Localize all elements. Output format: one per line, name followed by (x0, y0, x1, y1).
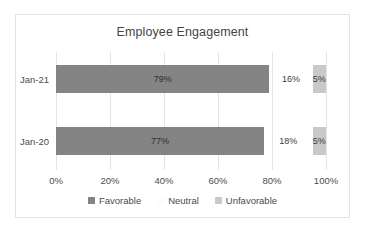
category-label: Jan-21 (20, 74, 49, 85)
x-axis-tick: 80% (262, 175, 281, 186)
bar-segment-value: 77% (151, 136, 169, 146)
gridline-100 (326, 52, 327, 170)
legend-swatch-icon (157, 197, 164, 204)
plot-area: Jan-21 79% 16% 5% Jan-20 77% 18% 5% (56, 52, 326, 170)
bar-segment-neutral[interactable]: 16% (269, 65, 312, 93)
legend-item-favorable[interactable]: Favorable (88, 195, 141, 206)
category-label: Jan-20 (20, 136, 49, 147)
legend-label: Neutral (168, 195, 199, 206)
x-axis: 0% 20% 40% 60% 80% 100% (56, 175, 326, 189)
bar-segment-unfavorable[interactable]: 5% (313, 127, 327, 155)
x-axis-tick: 0% (49, 175, 63, 186)
bar-segment-value: 18% (279, 136, 297, 146)
bar-segment-value: 5% (313, 136, 326, 146)
legend-label: Unfavorable (226, 195, 277, 206)
x-axis-tick: 40% (154, 175, 173, 186)
legend-label: Favorable (99, 195, 141, 206)
bar-row[interactable]: Jan-21 79% 16% 5% (56, 65, 326, 93)
x-axis-tick: 100% (314, 175, 338, 186)
bar-segment-unfavorable[interactable]: 5% (313, 65, 327, 93)
legend-item-unfavorable[interactable]: Unfavorable (215, 195, 277, 206)
legend-swatch-icon (215, 197, 222, 204)
chart-container: Employee Engagement Jan-21 79% 16% 5% Ja… (15, 14, 350, 218)
bar-segment-favorable[interactable]: 77% (56, 127, 264, 155)
x-axis-tick: 60% (208, 175, 227, 186)
x-axis-tick: 20% (100, 175, 119, 186)
bar-segment-neutral[interactable]: 18% (264, 127, 313, 155)
chart-legend: Favorable Neutral Unfavorable (16, 195, 349, 206)
legend-item-neutral[interactable]: Neutral (157, 195, 199, 206)
bar-segment-value: 16% (282, 74, 300, 84)
chart-title: Employee Engagement (16, 25, 349, 39)
bar-row[interactable]: Jan-20 77% 18% 5% (56, 127, 326, 155)
bar-segment-value: 5% (313, 74, 326, 84)
bar-segment-favorable[interactable]: 79% (56, 65, 269, 93)
legend-swatch-icon (88, 197, 95, 204)
bar-segment-value: 79% (154, 74, 172, 84)
